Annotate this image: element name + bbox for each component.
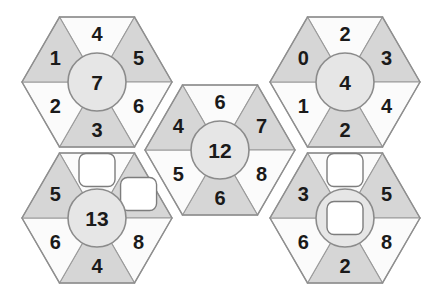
hexagon-puzzle-svg: 456321723421046786541284651358263 — [0, 0, 430, 307]
blank-input-bottom-left-top[interactable] — [79, 154, 115, 187]
hexagon-wheel-top-left: 4563217 — [22, 17, 172, 147]
hub-value-center: 12 — [208, 139, 231, 162]
segment-value-center-bottom: 6 — [214, 187, 225, 209]
segment-value-top-right-upper-right: 3 — [381, 47, 392, 69]
segment-value-bottom-left-upper-left: 5 — [50, 183, 61, 205]
segment-value-center-upper-left: 4 — [173, 115, 185, 137]
hexagon-wheel-bottom-left: 846513 — [22, 153, 172, 283]
segment-value-center-lower-right: 8 — [256, 163, 267, 185]
segment-value-center-lower-left: 5 — [173, 163, 184, 185]
segment-value-top-left-bottom: 3 — [91, 119, 102, 141]
segment-value-bottom-right-upper-left: 3 — [298, 183, 309, 205]
segment-value-top-left-upper-left: 1 — [50, 47, 61, 69]
hexagon-puzzle-canvas: 456321723421046786541284651358263 — [0, 0, 430, 307]
segment-value-center-top: 6 — [214, 91, 225, 113]
hexagon-wheel-center: 67865412 — [145, 85, 295, 215]
blank-input-bottom-right-top[interactable] — [327, 154, 363, 187]
hub-value-top-right: 4 — [339, 71, 351, 94]
segment-value-bottom-left-lower-right: 8 — [133, 231, 144, 253]
segment-value-top-left-lower-left: 2 — [50, 95, 61, 117]
segment-value-bottom-right-lower-right: 8 — [381, 231, 392, 253]
segment-value-top-right-bottom: 2 — [339, 119, 350, 141]
segment-value-bottom-right-lower-left: 6 — [298, 231, 309, 253]
segment-value-bottom-right-upper-right: 5 — [381, 183, 392, 205]
blank-input-bottom-right-hub[interactable] — [327, 202, 363, 235]
hexagon-wheel-bottom-right: 58263 — [270, 153, 420, 283]
segment-value-bottom-right-bottom: 2 — [339, 255, 350, 277]
segment-value-top-right-lower-left: 1 — [298, 95, 309, 117]
hub-value-bottom-left: 13 — [85, 207, 108, 230]
segment-value-top-left-upper-right: 5 — [133, 47, 144, 69]
segment-value-bottom-left-lower-left: 6 — [50, 231, 61, 253]
segment-value-top-left-top: 4 — [91, 23, 103, 45]
hexagon-wheel-top-right: 2342104 — [270, 17, 420, 147]
segment-value-top-right-top: 2 — [339, 23, 350, 45]
hub-value-top-left: 7 — [91, 71, 103, 94]
segment-value-center-upper-right: 7 — [256, 115, 267, 137]
segment-value-bottom-left-bottom: 4 — [91, 255, 103, 277]
segment-value-top-right-lower-right: 4 — [381, 95, 393, 117]
segment-value-top-left-lower-right: 6 — [133, 95, 144, 117]
blank-input-bottom-left-upper-right[interactable] — [121, 178, 157, 211]
segment-value-top-right-upper-left: 0 — [298, 47, 309, 69]
